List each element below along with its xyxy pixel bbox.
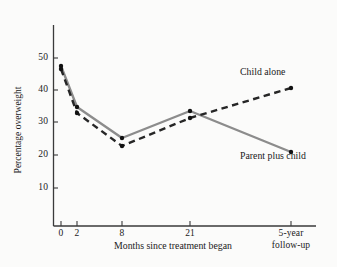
chart-figure: 50 40 30 20 10 0 2 8 21 5-year follow-up…	[0, 0, 337, 267]
x-axis-title: Months since treatment began	[53, 240, 293, 251]
y-tick-label-20: 20	[26, 149, 48, 159]
series-annotation-child-alone: Child alone	[240, 66, 285, 77]
x-tick-label-2: 2	[75, 228, 80, 238]
x-tick-label-21: 21	[185, 228, 195, 238]
chart-plot-area	[0, 0, 337, 267]
y-tick-label-10: 10	[26, 182, 48, 192]
series-line-parent-plus-child	[61, 66, 291, 152]
y-axis-ticks	[54, 58, 59, 188]
y-tick-label-50: 50	[26, 52, 48, 62]
y-tick-label-40: 40	[26, 84, 48, 94]
series-annotation-parent-plus-child: Parent plus child	[240, 150, 306, 161]
x-tick-label-5-year: 5-year	[279, 228, 304, 238]
y-axis-title-text: Percentage overweight	[13, 60, 23, 200]
x-tick-label-8: 8	[120, 228, 125, 238]
y-axis-title: Percentage overweight	[13, 0, 23, 60]
series-line-child-alone	[61, 69, 291, 146]
y-tick-label-30: 30	[26, 116, 48, 126]
x-axis-ticks	[61, 221, 291, 226]
series-markers-child-alone	[59, 67, 293, 148]
x-tick-label-0: 0	[59, 228, 64, 238]
series-markers-parent-plus-child	[59, 64, 293, 154]
